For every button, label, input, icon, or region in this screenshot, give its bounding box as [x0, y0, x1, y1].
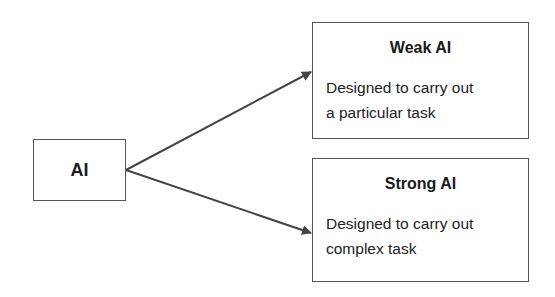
strong-ai-title: Strong AI — [313, 175, 528, 193]
arrow-to-strong-ai — [126, 170, 311, 233]
weak-ai-desc-line-2: a particular task — [326, 100, 520, 125]
weak-ai-desc-line-1: Designed to carry out — [326, 75, 520, 100]
strong-ai-description: Designed to carry out complex task — [326, 211, 520, 261]
weak-ai-node: Weak AI Designed to carry out a particul… — [312, 22, 529, 139]
weak-ai-description: Designed to carry out a particular task — [326, 75, 520, 125]
strong-ai-node: Strong AI Designed to carry out complex … — [312, 158, 529, 282]
strong-ai-desc-line-1: Designed to carry out — [326, 211, 520, 236]
ai-root-node: AI — [33, 139, 126, 201]
strong-ai-desc-line-2: complex task — [326, 236, 520, 261]
arrow-to-weak-ai — [126, 72, 311, 170]
weak-ai-title: Weak AI — [313, 39, 528, 57]
ai-root-label: AI — [71, 160, 89, 181]
